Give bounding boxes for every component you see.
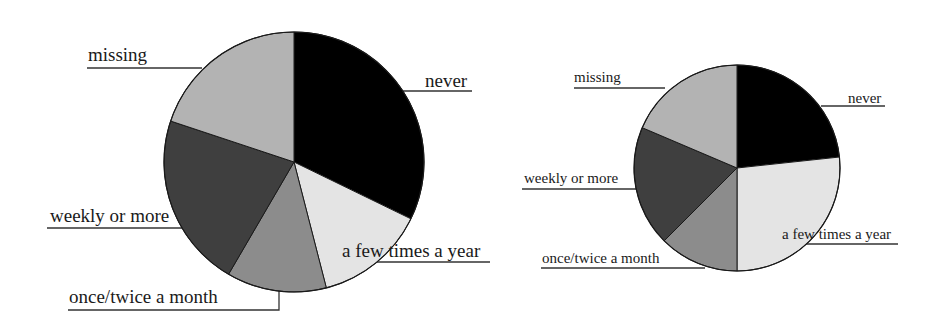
slice-label-weekly-or-more: weekly or more	[50, 205, 169, 226]
slice-label-a-few-times-a-year: a few times a year	[782, 226, 891, 242]
slice-label-missing: missing	[88, 44, 148, 65]
pie-charts-figure: nevera few times a yearonce/twice a mont…	[0, 0, 944, 322]
slice-label-never: never	[425, 70, 468, 91]
slice-label-a-few-times-a-year: a few times a year	[342, 240, 481, 261]
right-pie-chart: nevera few times a yearonce/twice a mont…	[522, 65, 898, 271]
slice-label-never: never	[848, 90, 881, 106]
left-pie-chart: nevera few times a yearonce/twice a mont…	[47, 32, 490, 310]
pie-slice-a-few-times-a-year	[737, 157, 840, 271]
pie-slice-never	[737, 65, 839, 168]
slice-label-weekly-or-more: weekly or more	[524, 170, 618, 186]
slice-label-missing: missing	[574, 69, 621, 85]
slice-label-once-twice-a-month: once/twice a month	[69, 286, 218, 307]
slice-label-once-twice-a-month: once/twice a month	[542, 250, 660, 266]
